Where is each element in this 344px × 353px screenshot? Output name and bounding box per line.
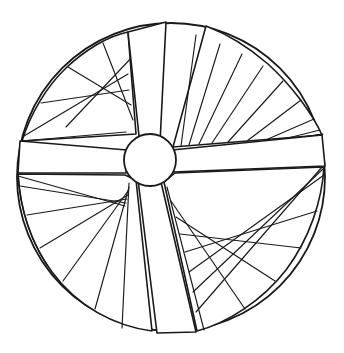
central-hub <box>124 134 176 186</box>
wheel-rosette-figure <box>0 0 344 353</box>
sector-top-left <box>22 32 136 141</box>
sector-top-left-face <box>22 32 136 141</box>
